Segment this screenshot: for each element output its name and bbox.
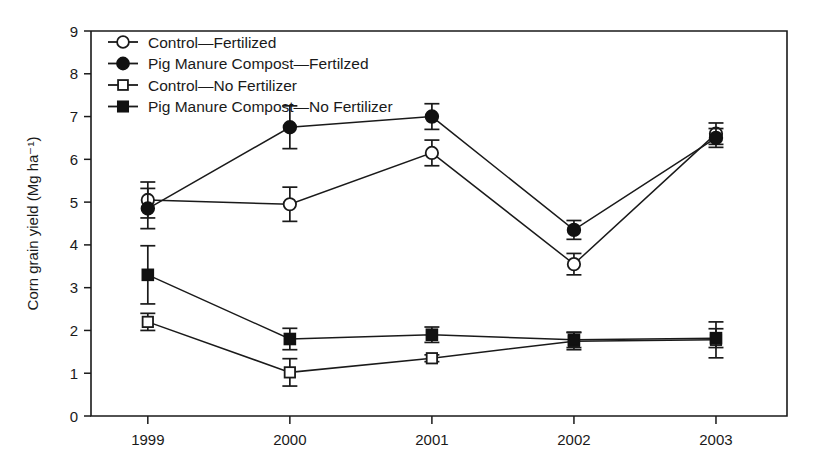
legend-item-0[interactable]: Control—Fertilized	[108, 34, 276, 51]
marker-filled-circle	[425, 110, 438, 123]
y-tick-label-8: 8	[70, 65, 78, 82]
marker-filled-square	[710, 333, 721, 344]
marker-filled-square	[118, 101, 128, 111]
series-layer	[140, 104, 723, 386]
x-tick-label-2003: 2003	[699, 431, 732, 448]
legend-label-2: Control—No Fertilizer	[148, 77, 297, 94]
y-axis-title: Corn grain yield (Mg ha⁻¹)	[24, 137, 41, 311]
marker-open-square	[143, 317, 153, 327]
marker-filled-circle	[117, 57, 129, 69]
x-tick-label-2002: 2002	[557, 431, 590, 448]
legend-label-0: Control—Fertilized	[148, 34, 276, 51]
legend-item-2[interactable]: Control—No Fertilizer	[108, 77, 297, 94]
legend-label-1: Pig Manure Compost—Fertilzed	[148, 55, 369, 72]
marker-filled-square	[426, 329, 437, 340]
y-tick-label-2: 2	[70, 322, 78, 339]
x-tick-label-1999: 1999	[131, 431, 164, 448]
marker-filled-circle	[141, 202, 154, 215]
marker-filled-circle	[283, 121, 296, 134]
y-tick-label-0: 0	[70, 408, 78, 425]
y-tick-label-4: 4	[70, 236, 78, 253]
series-points-1	[140, 104, 723, 240]
legend-item-3[interactable]: Pig Manure Compost—No Fertilizer	[108, 98, 393, 115]
legend: Control—FertilizedPig Manure Compost—Fer…	[108, 34, 393, 116]
marker-open-square	[427, 353, 437, 363]
x-tick-label-2000: 2000	[273, 431, 306, 448]
marker-open-circle	[568, 258, 580, 270]
y-tick-label-9: 9	[70, 23, 78, 40]
marker-filled-circle	[568, 224, 581, 237]
y-tick-label-6: 6	[70, 151, 78, 168]
marker-open-circle	[426, 147, 438, 159]
marker-open-circle	[117, 36, 129, 48]
series-points-0	[140, 123, 723, 275]
chart-figure: 012345678919992000200120022003Corn grain…	[0, 0, 821, 474]
marker-filled-square	[568, 334, 579, 345]
legend-item-1[interactable]: Pig Manure Compost—Fertilzed	[108, 55, 369, 72]
marker-open-square	[285, 367, 295, 377]
y-tick-label-1: 1	[70, 365, 78, 382]
marker-filled-square	[284, 334, 295, 345]
y-tick-label-7: 7	[70, 108, 78, 125]
series-points-3	[140, 246, 723, 350]
y-tick-label-3: 3	[70, 279, 78, 296]
x-tick-label-2001: 2001	[415, 431, 448, 448]
legend-label-3: Pig Manure Compost—No Fertilizer	[148, 98, 393, 115]
marker-open-circle	[284, 198, 296, 210]
marker-filled-square	[142, 269, 153, 280]
y-tick-label-5: 5	[70, 194, 78, 211]
marker-open-square	[118, 80, 128, 90]
marker-filled-circle	[710, 132, 723, 145]
line-chart-svg: 012345678919992000200120022003Corn grain…	[0, 0, 821, 474]
